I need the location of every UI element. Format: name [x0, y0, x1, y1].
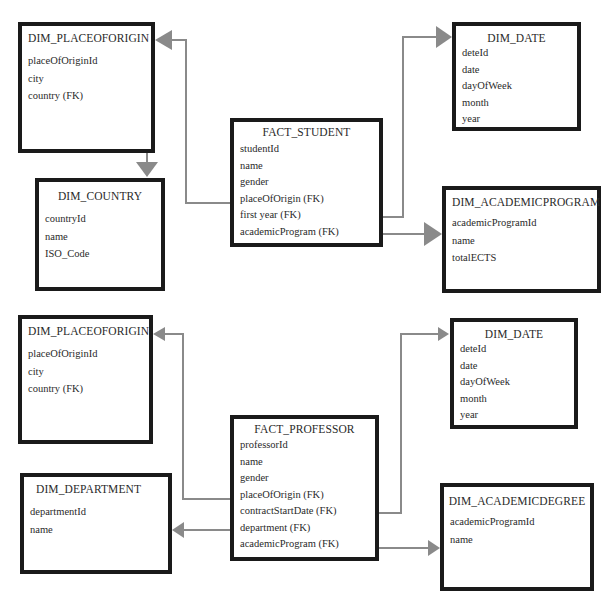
- table-field: month: [456, 95, 577, 112]
- arrowhead-icon: [438, 327, 449, 341]
- table-field: name: [39, 228, 161, 246]
- table-dim-date-professor[interactable]: DIM_DATE deteId date dayOfWeek month yea…: [450, 318, 578, 429]
- arrowhead-icon: [155, 30, 172, 50]
- table-field: date: [454, 358, 574, 375]
- table-dim-placeoforigin-professor[interactable]: DIM_PLACEOFORIGIN placeOfOriginId city c…: [18, 315, 153, 444]
- table-field: name: [444, 531, 590, 549]
- table-dim-academicdegree[interactable]: DIM_ACADEMICDEGREE academicProgramId nam…: [440, 483, 594, 591]
- table-field: contractStartDate (FK): [234, 503, 375, 520]
- table-field: placeOfOrigin (FK): [234, 191, 379, 208]
- arrowhead-icon: [153, 327, 165, 341]
- arrowhead-icon: [172, 522, 184, 538]
- table-field: deteId: [454, 341, 574, 358]
- table-field: country (FK): [22, 87, 151, 105]
- table-field: year: [454, 407, 574, 424]
- table-dim-date[interactable]: DIM_DATE deteId date dayOfWeek month yea…: [452, 22, 581, 131]
- table-field: academicProgramId: [444, 513, 590, 531]
- table-field: city: [22, 70, 151, 88]
- table-field: totalECTS: [446, 249, 597, 267]
- arrowhead-icon: [136, 162, 158, 177]
- arrowhead-icon: [424, 222, 442, 246]
- table-title: DIM_PLACEOFORIGIN: [22, 32, 151, 44]
- connector-professor-date: [371, 334, 438, 513]
- table-dim-placeoforigin[interactable]: DIM_PLACEOFORIGIN placeOfOriginId city c…: [18, 22, 155, 153]
- table-field: placeOfOrigin (FK): [234, 487, 375, 504]
- table-field: studentId: [234, 141, 379, 158]
- table-field: name: [446, 232, 597, 250]
- table-title: DIM_ACADEMICPROGRAM: [446, 196, 597, 208]
- table-field: country (FK): [22, 380, 149, 398]
- table-field: name: [234, 454, 375, 471]
- table-field: professorId: [234, 437, 375, 454]
- table-title: DIM_DATE: [456, 32, 577, 44]
- table-field: dayOfWeek: [454, 374, 574, 391]
- table-field: academicProgram (FK): [234, 536, 375, 553]
- table-dim-academicprogram[interactable]: DIM_ACADEMICPROGRAM academicProgramId na…: [442, 186, 601, 293]
- arrowhead-icon: [428, 540, 440, 556]
- table-field: date: [456, 62, 577, 79]
- table-field: department (FK): [234, 520, 375, 537]
- table-field: year: [456, 111, 577, 128]
- table-field: name: [24, 521, 168, 539]
- table-fact-professor[interactable]: FACT_PROFESSOR professorId name gender p…: [230, 415, 379, 561]
- connector-student-placeoforigin: [168, 40, 232, 203]
- table-fact-student[interactable]: FACT_STUDENT studentId name gender place…: [230, 118, 383, 247]
- table-field: countryId: [39, 210, 161, 228]
- table-title: DIM_DATE: [454, 328, 574, 340]
- table-field: first year (FK): [234, 207, 379, 224]
- table-field: academicProgram (FK): [234, 224, 379, 241]
- table-field: gender: [234, 470, 375, 487]
- table-field: month: [454, 391, 574, 408]
- table-title: DIM_COUNTRY: [39, 190, 161, 202]
- table-field: gender: [234, 174, 379, 191]
- connector-professor-placeoforigin: [164, 334, 232, 499]
- table-title: DIM_ACADEMICDEGREE: [444, 495, 590, 507]
- table-field: deteId: [456, 45, 577, 62]
- table-field: academicProgramId: [446, 214, 597, 232]
- table-field: ISO_Code: [39, 245, 161, 263]
- table-dim-country[interactable]: DIM_COUNTRY countryId name ISO_Code: [35, 178, 165, 291]
- table-field: placeOfOriginId: [22, 345, 149, 363]
- table-title: DIM_DEPARTMENT: [24, 483, 168, 495]
- table-title: FACT_STUDENT: [234, 126, 379, 138]
- table-field: placeOfOriginId: [22, 52, 151, 70]
- table-dim-department[interactable]: DIM_DEPARTMENT departmentId name: [20, 473, 172, 574]
- arrowhead-icon: [436, 26, 452, 48]
- table-field: dayOfWeek: [456, 78, 577, 95]
- table-field: city: [22, 363, 149, 381]
- table-field: departmentId: [24, 503, 168, 521]
- table-title: DIM_PLACEOFORIGIN: [22, 325, 149, 337]
- table-title: FACT_PROFESSOR: [234, 423, 375, 435]
- table-field: name: [234, 158, 379, 175]
